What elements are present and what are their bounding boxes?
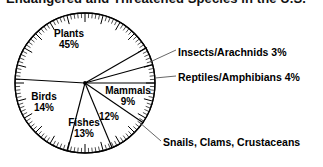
slice-label-mammals: Mammals 9%: [99, 86, 157, 107]
callout-label-snails-clams-crustaceans: Snails, Clams, Crustaceans: [163, 137, 300, 148]
pie-chart-figure: Endangered and Threatened Species in the…: [0, 0, 323, 167]
slice-label-plants-percent: 45%: [37, 40, 101, 51]
callout-label-reptiles-amphibians: Reptiles/Amphibians 4%: [178, 72, 300, 83]
slice-label-fishes-percent: 13%: [56, 129, 112, 140]
slice-label-mammals-name: Mammals: [105, 85, 151, 96]
slice-label-birds-name: Birds: [31, 91, 57, 102]
slice-label-plants-name: Plants: [54, 28, 84, 39]
slice-label-fishes-name: Fishes: [68, 117, 100, 128]
slice-label-plants: Plants 45%: [37, 29, 101, 50]
slice-label-birds: Birds 14%: [16, 92, 72, 113]
slice-label-snails-percent: 12%: [99, 112, 131, 123]
pie-center-point: [83, 81, 87, 85]
callout-label-insects-arachnids: Insects/Arachnids 3%: [178, 47, 287, 58]
slice-label-mammals-percent: 9%: [99, 97, 157, 108]
slice-label-birds-percent: 14%: [16, 103, 72, 114]
